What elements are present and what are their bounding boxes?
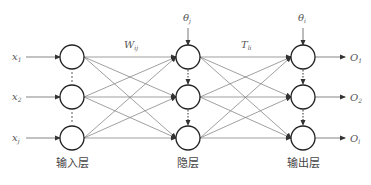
input-arrows	[26, 57, 60, 138]
output-arrows	[315, 57, 345, 138]
neural-network-diagram: x1 x2 xj Wij Tli θj θi O1 O2 Ol 输入层 隐层 输…	[0, 0, 371, 185]
hidden-layer-label: 隐层	[177, 157, 199, 170]
output-node	[291, 85, 315, 109]
hidden-node	[176, 126, 200, 150]
weight-label-t: Tli	[241, 39, 252, 51]
diagram-svg: x1 x2 xj Wij Tli θj θi O1 O2 Ol 输入层 隐层 输…	[0, 0, 371, 185]
input-node	[60, 45, 84, 69]
output-layer-nodes	[291, 45, 315, 150]
input-label-xj: xj	[12, 132, 20, 145]
output-label-ol: Ol	[350, 133, 360, 145]
input-hidden-edges	[84, 57, 176, 138]
weight-label-w: Wij	[124, 39, 138, 52]
hidden-output-edges	[200, 57, 291, 138]
output-label-o1: O1	[350, 52, 362, 64]
output-node	[291, 126, 315, 150]
input-layer-label: 输入层	[56, 156, 89, 170]
input-label-x2: x2	[12, 91, 22, 103]
hidden-layer-nodes	[176, 45, 200, 150]
hidden-node	[176, 45, 200, 69]
hidden-node	[176, 85, 200, 109]
input-node	[60, 126, 84, 150]
bias-label-theta-i: θi	[298, 12, 306, 24]
input-label-x1: x1	[12, 51, 21, 63]
output-label-o2: O2	[350, 92, 362, 104]
output-layer-label: 输出层	[287, 156, 320, 170]
bias-label-theta-j: θj	[183, 12, 191, 25]
output-node	[291, 45, 315, 69]
input-node	[60, 85, 84, 109]
input-layer-nodes	[60, 45, 84, 150]
